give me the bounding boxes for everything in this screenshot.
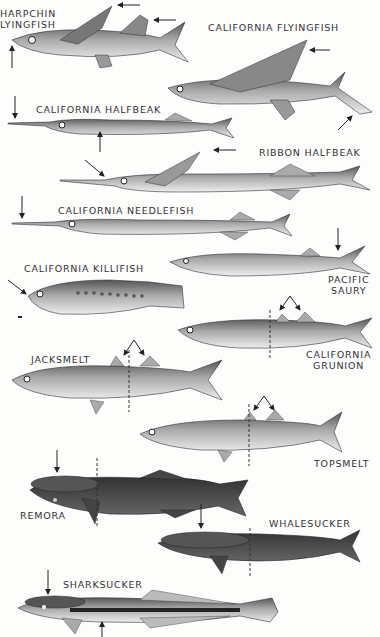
fish-plate: HARPCHIN LYINGFISH CALIFORNIA FLYINGFISH… (0, 0, 380, 637)
california-killifish-figure (8, 280, 184, 318)
label-remora: REMORA (20, 510, 66, 521)
california-flyingfish-figure (168, 40, 372, 130)
topsmelt-figure (140, 396, 342, 466)
label-california-needlefish: CALIFORNIA NEEDLEFISH (58, 205, 194, 216)
label-whalesucker: WHALESUCKER (269, 518, 351, 529)
label-line: LYINGFISH (0, 19, 56, 30)
jacksmelt-figure (12, 340, 222, 414)
fish-illustrations (0, 0, 380, 637)
pacific-saury-figure (170, 228, 370, 276)
label-california-killifish: CALIFORNIA KILLIFISH (24, 263, 144, 274)
label-jacksmelt: JACKSMELT (31, 354, 90, 365)
label-california-flyingfish: CALIFORNIA FLYINGFISH (208, 22, 339, 33)
label-topsmelt: TOPSMELT (314, 458, 369, 469)
label-california-grunion: CALIFORNIA GRUNION (306, 349, 371, 371)
label-line: PACIFIC (328, 274, 369, 285)
whalesucker-figure (158, 504, 360, 578)
label-california-halfbeak: CALIFORNIA HALFBEAK (36, 104, 161, 115)
label-pacific-saury: PACIFIC SAURY (328, 274, 369, 296)
label-ribbon-halfbeak: RIBBON HALFBEAK (259, 147, 361, 158)
label-line: HARPCHIN (0, 8, 56, 19)
label-line: SAURY (328, 285, 369, 296)
label-sharpchin-flyingfish: HARPCHIN LYINGFISH (0, 8, 56, 30)
california-needlefish-figure (12, 196, 292, 240)
sharksucker-figure (18, 570, 278, 637)
label-line: CALIFORNIA (306, 349, 371, 360)
label-line: GRUNION (306, 360, 371, 371)
label-sharksucker: SHARKSUCKER (63, 579, 143, 590)
